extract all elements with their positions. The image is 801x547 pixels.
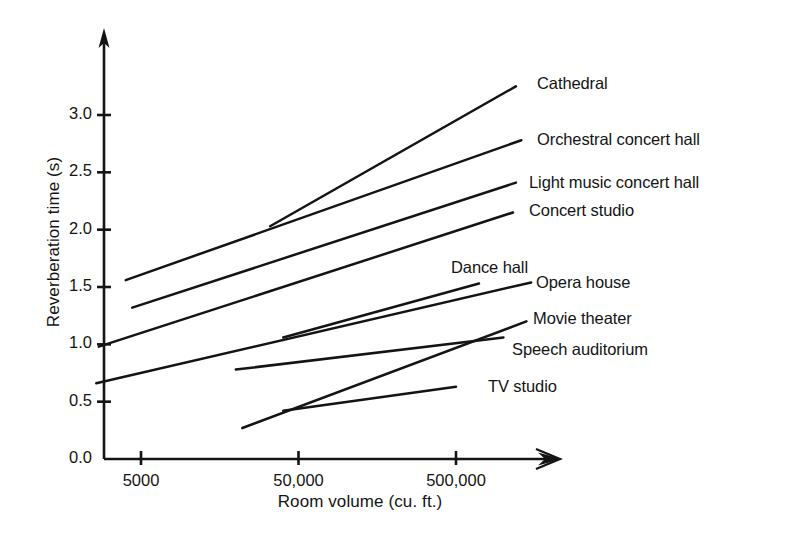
series-label: Movie theater [533,309,632,328]
series-label: Speech auditorium [512,340,648,359]
series-label: Concert studio [529,201,634,220]
reverberation-time-chart: Reverberation time (s) Room volume (cu. … [0,0,801,547]
x-axis-tick-label: 500,000 [401,471,511,490]
x-axis-tick-label: 50,000 [244,471,354,490]
y-axis-tick-label: 2.0 [46,219,92,238]
series-label: Cathedral [537,74,608,93]
x-axis-title: Room volume (cu. ft.) [210,492,510,512]
series-line [99,212,513,346]
y-axis-tick-label: 0.0 [46,448,92,467]
series-label: Dance hall [451,258,528,277]
x-axis-tick-label: 5000 [86,471,196,490]
chart-canvas [0,0,801,547]
series-line [283,387,456,411]
y-axis-tick-label: 0.5 [46,391,92,410]
series-label: Opera house [536,273,630,292]
y-axis-tick-label: 1.0 [46,333,92,352]
y-axis-tick-label: 1.5 [46,276,92,295]
series-line [283,284,479,338]
y-axis-tick-label: 3.0 [46,104,92,123]
series-label: TV studio [488,377,557,396]
chart-axes [99,28,563,469]
y-axis-tick-label: 2.5 [46,161,92,180]
series-label: Orchestral concert hall [537,130,700,149]
series-label: Light music concert hall [529,173,699,192]
